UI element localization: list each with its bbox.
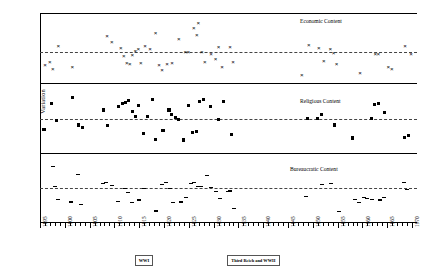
data-point xyxy=(164,182,168,183)
x-tick-minor xyxy=(273,223,274,226)
data-point xyxy=(195,130,198,133)
data-point xyxy=(370,199,374,200)
x-tick-major xyxy=(288,223,289,228)
data-point xyxy=(306,42,311,47)
x-tick-minor xyxy=(109,223,110,226)
data-point xyxy=(146,115,149,118)
x-tick-minor xyxy=(377,223,378,226)
data-point xyxy=(177,118,180,121)
data-point xyxy=(191,25,196,30)
data-point xyxy=(104,182,108,183)
data-point xyxy=(378,199,382,200)
data-point xyxy=(202,59,207,64)
data-point xyxy=(353,199,357,200)
x-tick-minor xyxy=(298,223,299,226)
x-tick-minor xyxy=(333,223,334,226)
data-point xyxy=(320,184,324,185)
data-point xyxy=(192,182,196,183)
data-point xyxy=(205,175,209,176)
data-point xyxy=(47,59,52,64)
data-point xyxy=(186,49,191,54)
data-point xyxy=(403,136,406,139)
x-tick-label: 1940 xyxy=(265,216,271,227)
data-point xyxy=(218,198,222,199)
x-tick-label: 1950 xyxy=(315,216,321,227)
data-point xyxy=(151,98,154,101)
data-point xyxy=(169,60,174,65)
x-tick-label: 1915 xyxy=(141,216,147,227)
data-point xyxy=(179,201,183,202)
data-point xyxy=(209,105,212,108)
data-point xyxy=(81,126,84,129)
data-point xyxy=(55,119,58,122)
data-point xyxy=(316,117,319,120)
x-tick-minor xyxy=(402,223,403,226)
data-point xyxy=(160,67,165,72)
x-tick-minor xyxy=(204,223,205,226)
data-point xyxy=(70,64,75,69)
data-point xyxy=(329,183,333,184)
data-point xyxy=(357,70,362,75)
x-tick-major xyxy=(238,223,239,228)
x-tick-minor xyxy=(357,223,358,226)
data-point xyxy=(214,191,218,192)
annotation-box-third-reich: Third Reich and WWII xyxy=(227,255,279,266)
data-point xyxy=(138,60,143,65)
x-tick-minor xyxy=(199,223,200,226)
x-tick-label: 1970 xyxy=(414,216,420,227)
x-tick-minor xyxy=(174,223,175,226)
x-tick-label: 1935 xyxy=(241,216,247,227)
panel-religious xyxy=(40,83,417,153)
x-tick-minor xyxy=(159,223,160,226)
x-tick-minor xyxy=(229,223,230,226)
data-point xyxy=(213,56,218,61)
data-point xyxy=(230,133,233,136)
data-point xyxy=(320,113,323,116)
x-tick-minor xyxy=(253,223,254,226)
data-point xyxy=(127,61,132,66)
x-tick-minor xyxy=(224,223,225,226)
data-point xyxy=(131,110,134,113)
x-tick-minor xyxy=(104,223,105,226)
data-point xyxy=(407,134,410,137)
data-point xyxy=(216,44,221,49)
data-point xyxy=(53,186,57,187)
data-point xyxy=(117,105,120,108)
mean-line-bureaucratic xyxy=(40,188,417,189)
annotation-box-wwi: WWI xyxy=(135,255,154,266)
data-point xyxy=(109,39,114,44)
x-tick-minor xyxy=(184,223,185,226)
x-tick-minor xyxy=(248,223,249,226)
data-point xyxy=(351,136,354,139)
data-point xyxy=(142,132,145,135)
data-point xyxy=(304,196,308,197)
x-tick-label: 1955 xyxy=(340,216,346,227)
data-point xyxy=(199,49,204,54)
x-tick-major xyxy=(114,223,115,228)
x-tick-minor xyxy=(323,223,324,226)
data-point xyxy=(232,208,236,209)
mean-line-economic xyxy=(40,52,417,53)
data-point xyxy=(56,43,61,48)
panel-economic xyxy=(40,13,417,83)
data-point xyxy=(110,185,114,186)
x-tick-major xyxy=(362,223,363,228)
x-tick-minor xyxy=(372,223,373,226)
x-tick-minor xyxy=(154,223,155,226)
x-tick-minor xyxy=(129,223,130,226)
x-tick-major xyxy=(65,223,66,228)
data-point xyxy=(199,186,203,187)
data-point xyxy=(382,197,386,198)
x-tick-minor xyxy=(258,223,259,226)
data-point xyxy=(50,66,55,71)
x-tick-major xyxy=(90,223,91,228)
data-point xyxy=(333,123,336,126)
x-tick-label: 1905 xyxy=(92,216,98,227)
x-tick-minor xyxy=(348,223,349,226)
data-point xyxy=(76,174,80,175)
data-point xyxy=(77,123,80,126)
data-point xyxy=(194,32,199,37)
x-tick-minor xyxy=(75,223,76,226)
x-tick-major xyxy=(164,223,165,228)
data-point xyxy=(42,128,45,131)
